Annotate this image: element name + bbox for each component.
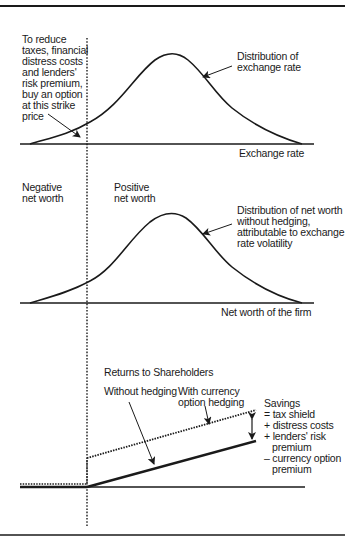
exchange-rate-axis-label: Exchange rate: [239, 148, 304, 159]
negative-net-worth-label: Negative net worth: [22, 182, 63, 204]
strike-annotation-label: To reduce taxes, financial distress cost…: [22, 34, 88, 122]
exchange-distribution-label: Distribution of exchange rate: [237, 51, 301, 73]
net-worth-axis-label: Net worth of the firm: [221, 307, 311, 318]
without-hedging-arrow: [129, 402, 154, 464]
positive-net-worth-label: Positive net worth: [114, 182, 155, 204]
negative-net-worth-line: net worth: [22, 193, 63, 204]
savings-line: premium: [264, 464, 341, 475]
with-hedging-line-text: option hedging: [178, 397, 244, 408]
with-hedging-label: With currency option hedging: [178, 386, 244, 408]
with-hedging-arrow: [205, 406, 209, 424]
strike-annotation-line: price: [22, 111, 88, 122]
without-hedging-line: [87, 441, 256, 487]
exchange-distribution-line: exchange rate: [237, 62, 301, 73]
with-hedging-line: [87, 410, 256, 458]
exchange-distribution-arrow: [203, 66, 232, 77]
net-worth-distribution-label: Distribution of net worth without hedgin…: [237, 205, 344, 249]
savings-label: Savings = tax shield + distress costs + …: [264, 398, 341, 475]
without-hedging-label: Without hedging: [104, 386, 177, 397]
positive-net-worth-line: net worth: [114, 193, 155, 204]
returns-title: Returns to Shareholders: [104, 367, 213, 378]
net-worth-distribution-arrow: [203, 224, 232, 234]
net-worth-distribution-line: rate volatility: [237, 238, 344, 249]
